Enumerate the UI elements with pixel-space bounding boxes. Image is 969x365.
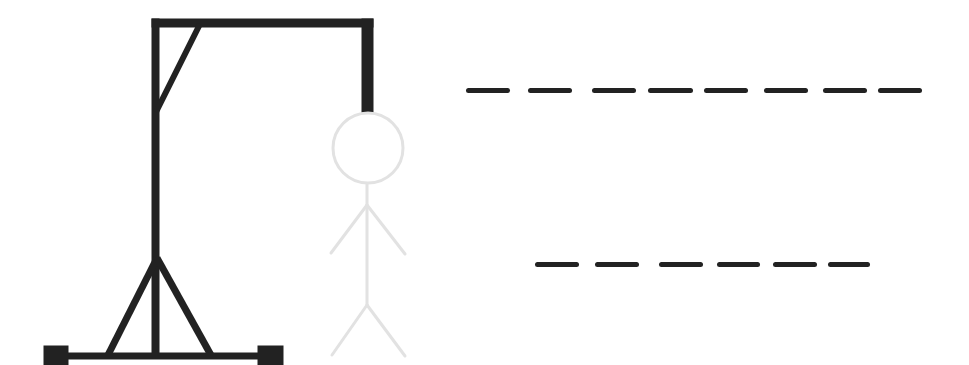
letter-slot [764, 88, 808, 93]
gallows-leg-right [157, 258, 212, 357]
figure-arm-left [331, 205, 367, 253]
letter-slot [773, 262, 817, 267]
letter-slot [828, 262, 870, 267]
figure-head [333, 113, 403, 183]
gallows-post [152, 19, 159, 357]
letter-slot [528, 88, 572, 93]
letter-slot [648, 88, 693, 93]
gallows-rope [362, 19, 373, 113]
figure-leg-left [332, 305, 367, 355]
gallows-leg-left [107, 258, 157, 357]
hanged-figure [331, 113, 405, 356]
letter-slot [659, 262, 703, 267]
letter-slot [717, 262, 760, 267]
gallows-base [60, 353, 265, 359]
gallows [44, 19, 373, 365]
letter-slot [592, 88, 636, 93]
figure-leg-right [367, 305, 405, 356]
letter-slot [878, 88, 922, 93]
letter-slot [823, 88, 867, 93]
gallows-top-beam [152, 19, 373, 27]
letter-slot [535, 262, 579, 267]
figure-arm-right [367, 205, 405, 254]
hangman-game [0, 0, 969, 365]
gallows-base-block-right [258, 346, 283, 365]
gallows-brace [156, 24, 200, 112]
letter-slot [704, 88, 748, 93]
letter-slot [466, 88, 510, 93]
gallows-drawing [0, 0, 969, 365]
letter-slot [595, 262, 639, 267]
gallows-base-block-left [44, 346, 68, 365]
